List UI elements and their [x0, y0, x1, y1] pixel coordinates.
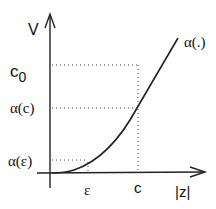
x-tick-eps: ε: [84, 182, 90, 198]
x-tick-c: c: [134, 179, 142, 196]
y-tick-alpha-c: α(c): [10, 100, 35, 117]
alpha-curve: [52, 38, 178, 173]
y-tick-c0: c0: [10, 62, 27, 85]
curve-label: α(.): [184, 34, 206, 51]
x-axis-label: |z|: [175, 183, 190, 200]
y-tick-c0-sub: 0: [19, 69, 27, 85]
y-axis-label: V: [28, 21, 39, 38]
diagram-canvas: V c0 α(c) α(ε) ε c |z| α(.): [0, 0, 216, 209]
y-tick-alpha-eps: α(ε): [8, 153, 32, 170]
